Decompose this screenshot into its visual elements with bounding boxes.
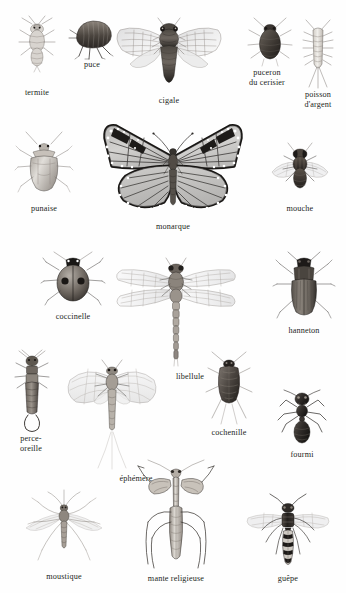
punaise-illustration xyxy=(14,130,74,200)
specimen-hanneton[interactable]: hanneton xyxy=(272,250,336,326)
label-cochenille: cochenille xyxy=(198,428,260,438)
guepe-illustration xyxy=(240,494,336,570)
specimen-coccinelle[interactable]: coccinelle xyxy=(40,250,106,312)
mante-religieuse-illustration xyxy=(126,460,226,574)
label-poisson-argent: poisson d'argent xyxy=(295,90,341,109)
monarque-illustration xyxy=(94,118,252,222)
poisson-argent-illustration xyxy=(298,20,338,90)
label-guepe: guêpe xyxy=(240,574,336,584)
specimen-ephemere[interactable]: éphémère xyxy=(58,352,166,470)
cigale-illustration xyxy=(112,14,226,94)
termite-illustration xyxy=(10,12,64,74)
perce-oreille-illustration xyxy=(12,350,52,434)
specimen-mante-religieuse[interactable]: mante religieuse xyxy=(126,460,226,574)
label-mouche: mouche xyxy=(268,204,332,214)
specimen-moustique[interactable]: moustique xyxy=(20,488,108,570)
label-monarque: monarque xyxy=(94,222,252,232)
specimen-punaise[interactable]: punaise xyxy=(14,130,74,200)
puce-illustration xyxy=(66,16,118,60)
specimen-termite[interactable]: termite xyxy=(10,12,64,74)
cochenille-illustration xyxy=(204,352,254,426)
specimen-perce-oreille[interactable]: perce- oreille xyxy=(12,350,52,434)
specimen-puce[interactable]: puce xyxy=(66,16,118,60)
label-cigale: cigale xyxy=(112,96,226,106)
label-punaise: punaise xyxy=(14,204,74,214)
moustique-illustration xyxy=(20,488,108,570)
insect-plate: termite puce xyxy=(0,0,346,593)
specimen-monarque[interactable]: monarque xyxy=(94,118,252,222)
fourmi-illustration xyxy=(272,388,332,450)
label-termite: termite xyxy=(10,88,64,98)
hanneton-illustration xyxy=(272,250,336,326)
ephemere-illustration xyxy=(58,352,166,470)
specimen-fourmi[interactable]: fourmi xyxy=(272,388,332,450)
label-puce: puce xyxy=(66,60,118,70)
label-fourmi: fourmi xyxy=(272,450,332,460)
coccinelle-illustration xyxy=(40,250,106,312)
specimen-puceron-du-cerisier[interactable]: puceron du cerisier xyxy=(244,16,296,70)
label-perce-oreille: perce- oreille xyxy=(7,434,55,453)
label-mante-religieuse: mante religieuse xyxy=(126,574,226,584)
specimen-guepe[interactable]: guêpe xyxy=(240,494,336,570)
specimen-mouche[interactable]: mouche xyxy=(268,140,332,200)
label-coccinelle: coccinelle xyxy=(40,312,106,322)
label-puceron: puceron du cerisier xyxy=(241,68,293,87)
specimen-cochenille[interactable]: cochenille xyxy=(204,352,254,426)
specimen-poisson-d-argent[interactable]: poisson d'argent xyxy=(298,20,338,90)
specimen-cigale[interactable]: cigale xyxy=(112,14,226,94)
puceron-illustration xyxy=(244,16,296,70)
label-moustique: moustique xyxy=(20,572,108,582)
label-hanneton: hanneton xyxy=(272,326,336,336)
mouche-illustration xyxy=(268,140,332,200)
